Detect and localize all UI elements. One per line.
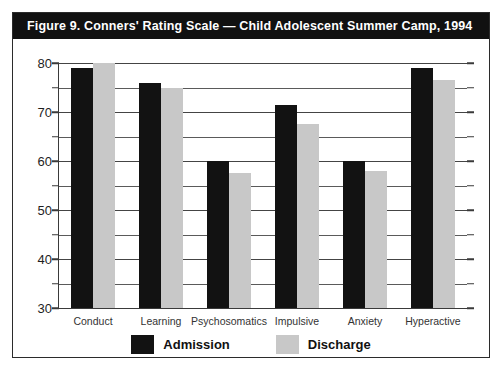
y-tick-right-35 [467,283,474,285]
y-axis-tick-label: 30 [38,301,52,316]
y-tick-right-45 [467,234,474,236]
bar-anxiety-admission [343,161,365,308]
x-axis-category-label: Impulsive [275,315,319,327]
y-tick-right-60 [467,160,474,162]
bar-conduct-discharge [93,63,115,308]
y-tick-left-45 [52,234,59,236]
y-tick-left-40 [52,258,59,260]
bar-learning-discharge [161,88,183,309]
y-axis-tick-label: 40 [38,252,52,267]
bar-hyperactive-discharge [433,80,455,308]
bar-impulsive-discharge [297,124,319,308]
figure-frame: Figure 9. Conners' Rating Scale — Child … [12,12,490,358]
y-tick-right-80 [467,62,474,64]
legend-label: Admission [163,337,229,352]
legend-swatch-admission [131,335,154,354]
x-axis-category-label: Learning [141,315,182,327]
page-title: Figure 9. Conners' Rating Scale — Child … [27,19,472,33]
y-axis-tick-label: 70 [38,105,52,120]
y-tick-left-55 [52,185,59,187]
y-tick-right-40 [467,258,474,260]
bar-anxiety-discharge [365,171,387,308]
y-tick-left-50 [52,209,59,211]
x-axis-category-label: Hyperactive [405,315,460,327]
y-axis-tick-label: 50 [38,203,52,218]
y-tick-left-80 [52,62,59,64]
bar-conduct-admission [71,68,93,308]
bar-learning-admission [139,83,161,308]
y-tick-left-75 [52,87,59,89]
legend-item-admission: Admission [131,335,229,354]
y-tick-right-30 [467,307,474,309]
y-axis-tick-label: 80 [38,56,52,71]
bar-psychosomatics-discharge [229,173,251,308]
y-tick-right-65 [467,136,474,138]
y-tick-left-70 [52,111,59,113]
bar-hyperactive-admission [411,68,433,308]
legend-label: Discharge [308,337,371,352]
y-tick-right-70 [467,111,474,113]
x-axis-category-label: Psychosomatics [191,315,267,327]
legend-swatch-discharge [276,335,299,354]
y-tick-left-65 [52,136,59,138]
figure-title-bar: Figure 9. Conners' Rating Scale — Child … [13,13,489,39]
chart-legend: AdmissionDischarge [13,335,489,354]
bar-psychosomatics-admission [207,161,229,308]
y-tick-left-60 [52,160,59,162]
y-axis-tick-label: 60 [38,154,52,169]
plot-wrapper: 304050607080 ConductLearningPsychosomati… [13,39,489,359]
bars-layer [59,63,467,308]
legend-item-discharge: Discharge [276,335,371,354]
x-axis-category-label: Conduct [73,315,112,327]
x-axis-category-label: Anxiety [348,315,382,327]
y-tick-right-50 [467,209,474,211]
y-tick-left-30 [52,307,59,309]
y-tick-right-75 [467,87,474,89]
y-tick-left-35 [52,283,59,285]
y-tick-right-55 [467,185,474,187]
bar-impulsive-admission [275,105,297,308]
chart-plot-area: 304050607080 ConductLearningPsychosomati… [58,63,467,309]
